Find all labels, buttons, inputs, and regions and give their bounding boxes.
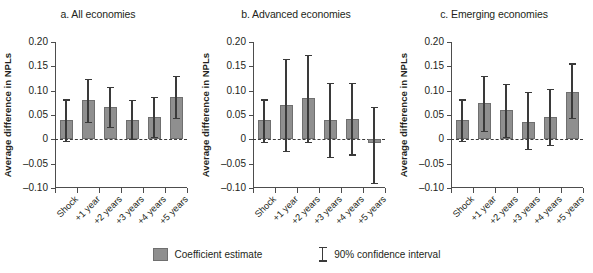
confidence-interval-line: [307, 55, 308, 142]
confidence-interval-line: [329, 83, 330, 157]
confidence-interval-line: [351, 83, 352, 155]
y-tick-label: 0.05: [227, 108, 246, 121]
y-tick-label: 0: [42, 132, 48, 145]
x-tick: [165, 188, 166, 193]
y-tick-label: –0.10: [23, 181, 48, 194]
ci-cap-upper: [327, 83, 334, 84]
legend-entry-coefficient: Coefficient estimate: [153, 248, 263, 261]
ci-cap-lower: [327, 157, 334, 158]
ci-cap-lower: [151, 137, 158, 138]
ci-cap-lower: [459, 141, 466, 142]
y-tick: 0.05: [51, 115, 56, 116]
ci-cap-upper: [305, 55, 312, 56]
x-tick: [121, 188, 122, 193]
ci-cap-upper: [481, 76, 488, 77]
ci-cap-lower: [129, 139, 136, 140]
y-tick: 0.10: [447, 91, 452, 92]
x-tick: [495, 188, 496, 193]
panel-c: c. Emerging economiesAverage difference …: [396, 0, 592, 232]
y-tick-label: 0.15: [227, 59, 246, 72]
y-axis-label: Average difference in NPLs: [2, 42, 15, 188]
y-tick-label: 0: [240, 132, 246, 145]
y-axis-label: Average difference in NPLs: [200, 42, 213, 188]
panel-title-b: b. Advanced economies: [198, 8, 394, 20]
x-tick: [275, 188, 276, 193]
chart-figure: a. All economiesAverage difference in NP…: [0, 0, 593, 273]
y-tick: 0.10: [51, 91, 56, 92]
ci-cap-lower: [481, 131, 488, 132]
confidence-interval-line: [109, 87, 110, 126]
ci-cap-upper: [63, 99, 70, 100]
y-tick: 0.20: [51, 42, 56, 43]
legend-errorbar-icon: [318, 247, 327, 262]
x-tick: [99, 188, 100, 193]
y-tick: 0.15: [249, 66, 254, 67]
ci-cap-lower: [371, 183, 378, 184]
confidence-interval-line: [527, 92, 528, 149]
ci-cap-upper: [85, 79, 92, 80]
y-tick-label: 0.10: [425, 84, 444, 97]
y-tick-label: 0.15: [425, 59, 444, 72]
ci-cap-upper: [525, 92, 532, 93]
y-tick: 0.05: [249, 115, 254, 116]
ci-cap-upper: [459, 99, 466, 100]
confidence-interval-line: [285, 59, 286, 151]
ci-cap-lower: [85, 122, 92, 123]
legend-ci-label: 90% confidence interval: [334, 249, 440, 260]
ci-cap-lower: [107, 127, 114, 128]
confidence-interval-line: [87, 79, 88, 122]
x-tick: [253, 188, 254, 193]
y-tick-label: 0.20: [227, 35, 246, 48]
x-tick: [451, 188, 452, 193]
x-tick: [143, 188, 144, 193]
x-tick: [77, 188, 78, 193]
plot-area-a: 0.200.150.100.050–0.05–0.10Shock+1 year+…: [55, 42, 187, 188]
y-tick: –0.05: [51, 164, 56, 165]
panel-b: b. Advanced economiesAverage difference …: [198, 0, 394, 232]
y-tick-label: –0.05: [23, 157, 48, 170]
ci-cap-upper: [371, 107, 378, 108]
confidence-interval-line: [131, 100, 132, 139]
y-tick: 0.15: [447, 66, 452, 67]
confidence-interval-line: [175, 76, 176, 118]
ci-cap-lower: [173, 118, 180, 119]
y-tick-label: 0.10: [227, 84, 246, 97]
plot-area-c: 0.200.150.100.050–0.05–0.10Shock+1 year+…: [451, 42, 583, 188]
ci-cap-lower: [569, 118, 576, 119]
x-tick: [55, 188, 56, 193]
y-tick: –0.05: [447, 164, 452, 165]
legend-entry-confidence-interval: 90% confidence interval: [318, 247, 440, 262]
confidence-interval-line: [263, 99, 264, 141]
legend-bar-swatch-icon: [153, 248, 168, 261]
confidence-interval-line: [373, 107, 374, 182]
ci-cap-lower: [525, 149, 532, 150]
y-tick-label: –0.10: [419, 181, 444, 194]
zero-reference-line: [253, 139, 385, 140]
confidence-interval-line: [483, 76, 484, 131]
y-tick: 0.15: [51, 66, 56, 67]
y-tick: 0.20: [249, 42, 254, 43]
ci-cap-upper: [107, 87, 114, 88]
ci-cap-upper: [349, 83, 356, 84]
ci-cap-lower: [261, 142, 268, 143]
y-tick: 0.10: [249, 91, 254, 92]
x-tick: [187, 188, 188, 193]
zero-reference-line: [451, 139, 583, 140]
x-tick: [517, 188, 518, 193]
plot-area-b: 0.200.150.100.050–0.05–0.10Shock+1 year+…: [253, 42, 385, 188]
y-tick-label: 0.20: [425, 35, 444, 48]
ci-cap-lower: [547, 145, 554, 146]
x-tick: [319, 188, 320, 193]
ci-cap-upper: [283, 59, 290, 60]
confidence-interval-line: [153, 97, 154, 138]
x-tick: [583, 188, 584, 193]
confidence-interval-line: [571, 63, 572, 118]
y-axis-label: Average difference in NPLs: [398, 42, 411, 188]
x-tick: [539, 188, 540, 193]
ci-cap-lower: [305, 142, 312, 143]
ci-cap-upper: [129, 100, 136, 101]
y-tick-label: 0.10: [29, 84, 48, 97]
ci-cap-upper: [547, 89, 554, 90]
panel-a: a. All economiesAverage difference in NP…: [0, 0, 196, 232]
y-tick: –0.05: [249, 164, 254, 165]
